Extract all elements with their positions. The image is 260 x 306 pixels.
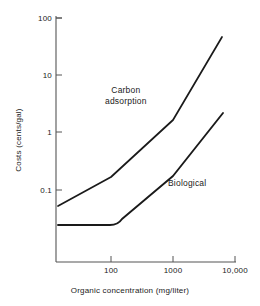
x-axis-ticks	[111, 256, 235, 262]
x-axis-title: Organic concentration (mg/liter)	[0, 286, 260, 295]
series-annotation-biological: Biological	[168, 178, 206, 189]
data-series	[58, 37, 223, 225]
plot-area	[0, 0, 260, 306]
y-tick-label-1: 1	[26, 128, 52, 137]
x-tick-label-10000: 10,000	[213, 266, 257, 275]
y-axis-title: Costs (cents/gal)	[14, 108, 23, 171]
chart-figure: 100 10 1 0.1 100 1000 10,000 Costs (cent…	[0, 0, 260, 306]
x-tick-label-1000: 1000	[153, 266, 193, 275]
y-tick-label-10: 10	[26, 71, 52, 80]
y-tick-label-0-1: 0.1	[26, 186, 52, 195]
y-tick-label-100: 100	[26, 14, 52, 23]
x-tick-label-100: 100	[91, 266, 131, 275]
y-axis-ticks	[56, 18, 62, 190]
series-annotation-carbon-adsorption: Carbon adsorption	[105, 85, 147, 108]
series-line-biological	[58, 113, 223, 225]
